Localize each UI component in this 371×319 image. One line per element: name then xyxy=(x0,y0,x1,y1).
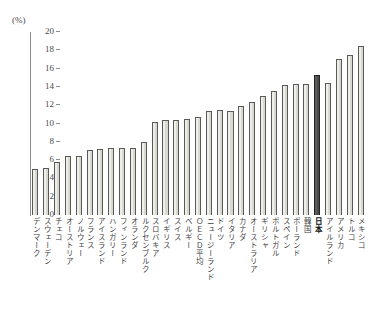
bar-highlight-edge xyxy=(294,85,296,215)
x-axis-label: チェコ xyxy=(53,217,62,241)
y-axis-tick-mark xyxy=(56,49,60,50)
bar-highlight-edge xyxy=(174,121,176,215)
bar-highlight-edge xyxy=(359,47,361,215)
y-axis-tick-mark xyxy=(56,123,60,124)
x-axis-label: スウェーデン xyxy=(42,217,51,265)
bar xyxy=(87,150,93,215)
bar-highlight-edge xyxy=(283,86,285,215)
bar-highlight-edge xyxy=(239,107,241,215)
bar xyxy=(206,111,212,215)
bar-highlight-edge xyxy=(44,169,46,215)
bar-highlight-edge xyxy=(33,170,35,215)
y-axis-tick-label: 12 xyxy=(45,99,54,110)
bar-highlight-edge xyxy=(55,163,57,215)
bar xyxy=(336,59,342,215)
bar xyxy=(282,85,288,215)
y-axis-tick-mark xyxy=(56,86,60,87)
x-axis-label: スペイン xyxy=(281,217,290,249)
x-axis-label: ノルウェー xyxy=(75,217,84,257)
y-axis-tick-label: 8 xyxy=(50,136,55,147)
x-axis-label: オーストラリア xyxy=(248,217,257,273)
bar-highlight-edge xyxy=(261,97,263,215)
bar xyxy=(43,168,49,215)
bar-highlight-edge xyxy=(326,84,328,215)
bar-highlight-edge xyxy=(218,111,220,215)
x-axis-label: ギリシャ xyxy=(259,217,268,249)
x-axis-label: アイルランド xyxy=(324,217,333,265)
bar-highlight-edge xyxy=(142,143,144,215)
y-axis-tick-label: 18 xyxy=(45,44,54,55)
y-axis-tick-mark xyxy=(56,141,60,142)
bar xyxy=(130,148,136,215)
y-axis-tick-label: 16 xyxy=(45,63,54,74)
bar xyxy=(195,117,201,215)
x-axis-label: アメリカ xyxy=(335,217,344,249)
bar-highlight-edge xyxy=(250,103,252,215)
bar-highlight-edge xyxy=(185,120,187,215)
bar xyxy=(260,96,266,215)
x-axis-label: フランス xyxy=(85,217,94,249)
bar xyxy=(217,110,223,215)
bar-highlight-edge xyxy=(153,123,155,215)
bar-chart-figure: (%) 02468101214161820 デンマークスウェーデンチェコオースト… xyxy=(0,0,371,319)
bar-highlight-edge xyxy=(66,157,68,215)
x-axis-label: スロバキア xyxy=(150,217,159,257)
x-axis-label: 韓国 xyxy=(302,217,311,233)
bar-highlight-edge xyxy=(348,56,350,215)
x-axis-category-labels: デンマークスウェーデンチェコオーストリアノルウェーフランスアイスランドハンガリー… xyxy=(30,217,366,317)
y-axis-tick-mark xyxy=(56,31,60,32)
bar-highlight-edge xyxy=(88,151,90,215)
bar-highlight-edge xyxy=(196,118,198,215)
bar xyxy=(97,149,103,215)
x-axis-label: 日本 xyxy=(313,217,322,233)
bar xyxy=(173,120,179,215)
bar-highlight-edge xyxy=(77,157,79,215)
bar xyxy=(152,122,158,215)
bar xyxy=(358,46,364,215)
x-axis-label: デンマーク xyxy=(31,217,40,257)
y-axis-tick-mark xyxy=(56,159,60,160)
y-axis-tick-label: 20 xyxy=(45,26,54,37)
bar-highlight-edge xyxy=(304,85,306,215)
x-axis-label: ニュージーランド xyxy=(205,217,214,281)
bar xyxy=(184,119,190,215)
y-axis-tick-label: 14 xyxy=(45,81,54,92)
x-axis-label: ポーランド xyxy=(291,217,300,257)
x-axis-label: ベルギー xyxy=(183,217,192,249)
bar xyxy=(271,91,277,215)
x-axis-label: ドイツ xyxy=(215,217,224,241)
bar xyxy=(76,156,82,215)
plot-area: 02468101214161820 xyxy=(30,32,366,215)
bar-highlight-edge xyxy=(207,112,209,215)
bar xyxy=(325,83,331,215)
bar xyxy=(347,55,353,215)
x-axis-label: イギリス xyxy=(161,217,170,249)
bar xyxy=(162,120,168,215)
bar xyxy=(238,106,244,215)
x-axis-label: イタリア xyxy=(226,217,235,249)
x-axis-label: トルコ xyxy=(346,217,355,241)
bar xyxy=(141,142,147,215)
y-axis-tick-mark xyxy=(56,68,60,69)
bar xyxy=(249,102,255,215)
x-axis-label: スイス xyxy=(172,217,181,241)
x-axis-label: フィンランド xyxy=(118,217,127,265)
bar xyxy=(119,148,125,215)
bar xyxy=(303,84,309,215)
bar-highlight-edge xyxy=(109,149,111,215)
bar-highlight-edge xyxy=(228,112,230,215)
y-axis-unit-label: (%) xyxy=(12,15,26,25)
x-axis-label: オーストリア xyxy=(64,217,73,265)
x-axis-label: ＯＥＣＤ平均 xyxy=(194,217,203,265)
bar xyxy=(108,148,114,215)
x-axis-label: メキシコ xyxy=(356,217,365,249)
bar xyxy=(227,111,233,215)
y-axis-tick-mark xyxy=(56,104,60,105)
bar xyxy=(293,84,299,215)
y-axis-tick-label: 10 xyxy=(45,118,54,129)
bar-highlight-edge xyxy=(163,121,165,215)
x-axis-label: アイスランド xyxy=(96,217,105,265)
bar xyxy=(54,162,60,215)
bar-highlight-edge xyxy=(272,92,274,215)
bar xyxy=(65,156,71,215)
